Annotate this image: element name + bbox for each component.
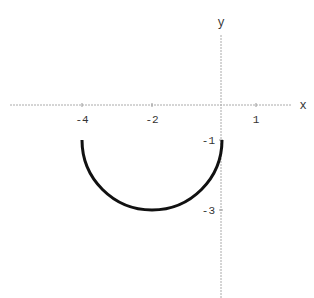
x-tick-label: -4	[75, 114, 89, 126]
x-tick-label: 1	[253, 114, 260, 126]
y-tick-label: -1	[202, 135, 216, 147]
x-tick-label: -2	[145, 114, 158, 126]
semicircle-curve	[82, 140, 222, 210]
y-tick-label: -3	[202, 205, 215, 217]
y-axis-label: y	[217, 16, 224, 30]
x-axis-label: x	[299, 99, 306, 113]
plot-area: -4 -2 1 -1 -3 x y	[0, 0, 314, 298]
